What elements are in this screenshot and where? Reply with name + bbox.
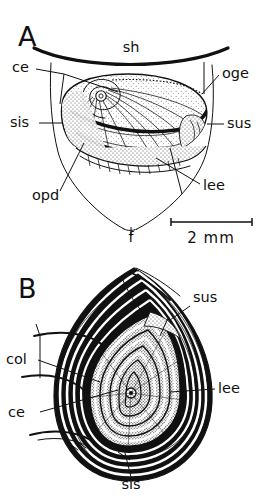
label-lee-b: lee bbox=[218, 380, 240, 396]
scale-bar-label: 2 mm bbox=[187, 229, 235, 247]
label-opd: opd bbox=[32, 187, 59, 203]
label-sus-a: sus bbox=[227, 115, 251, 131]
label-sis-a: sis bbox=[10, 114, 29, 130]
label-ce-b: ce bbox=[8, 404, 25, 420]
apex-nucleus bbox=[99, 94, 103, 98]
label-oge: oge bbox=[222, 65, 249, 81]
label-col: col bbox=[6, 351, 27, 367]
label-lee-a: lee bbox=[203, 177, 225, 193]
panel-b-letter: B bbox=[18, 273, 37, 304]
label-sh: sh bbox=[123, 39, 140, 55]
label-sus-b: sus bbox=[193, 289, 217, 305]
label-sis-b: sis bbox=[121, 476, 140, 492]
figure-root: A bbox=[0, 0, 262, 496]
figure-svg: A bbox=[0, 0, 262, 496]
label-ce-a: ce bbox=[12, 59, 29, 75]
label-f: f bbox=[128, 229, 134, 245]
